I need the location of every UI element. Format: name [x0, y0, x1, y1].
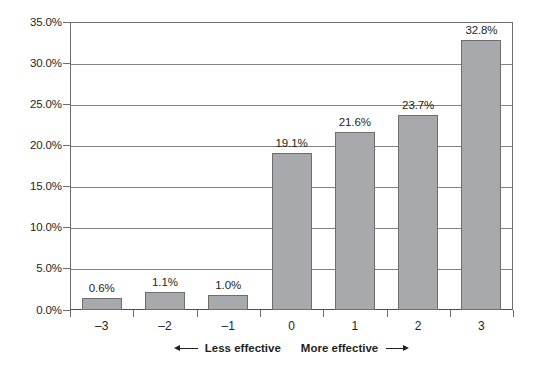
y-axis-label: 25.0%	[0, 98, 62, 110]
bar-chart: 35.0% 30.0% 25.0% 20.0% 15.0% 10.0% 5.0%…	[0, 0, 540, 375]
bar[interactable]	[208, 295, 248, 310]
bar-value-label: 23.7%	[402, 99, 434, 111]
bar-slot: 23.7%	[387, 22, 450, 310]
x-axis-label: 0	[260, 319, 323, 333]
bar-value-label: 1.1%	[152, 276, 178, 288]
bar-slot: 1.0%	[197, 22, 260, 310]
bar-value-label: 32.8%	[465, 24, 497, 36]
bar[interactable]	[335, 132, 375, 310]
x-axis-label: –2	[133, 319, 196, 333]
y-axis-label: 10.0%	[0, 221, 62, 233]
y-axis-label: 30.0%	[0, 57, 62, 69]
bar-slot: 21.6%	[323, 22, 386, 310]
x-axis-tick	[70, 310, 71, 317]
bars-layer: 0.6% 1.1% 1.0% 19.1% 21.6% 23.7% 32.8%	[70, 22, 513, 310]
bar[interactable]	[145, 292, 185, 310]
bar[interactable]	[398, 115, 438, 310]
bar-slot: 19.1%	[260, 22, 323, 310]
axis-scale-annotation: Less effective More effective	[70, 342, 513, 354]
x-axis-tick	[260, 310, 261, 317]
y-axis-label: 5.0%	[0, 262, 62, 274]
y-axis-label: 35.0%	[0, 16, 62, 28]
x-axis-label: 1	[323, 319, 386, 333]
y-axis: 35.0% 30.0% 25.0% 20.0% 15.0% 10.0% 5.0%…	[0, 0, 62, 375]
more-effective-annotation: More effective	[301, 342, 409, 354]
less-effective-annotation: Less effective	[174, 342, 281, 354]
y-axis-label: 0.0%	[0, 304, 62, 316]
arrow-left-icon	[174, 344, 200, 353]
bar[interactable]	[272, 153, 312, 310]
bar-value-label: 0.6%	[89, 282, 115, 294]
x-axis-tick	[197, 310, 198, 317]
bar-slot: 32.8%	[450, 22, 513, 310]
bar[interactable]	[82, 298, 122, 310]
bar-slot: 0.6%	[70, 22, 133, 310]
x-axis-label: –1	[197, 319, 260, 333]
bar[interactable]	[461, 40, 501, 310]
less-effective-label: Less effective	[205, 342, 281, 354]
x-axis-tick	[387, 310, 388, 317]
x-axis-tick	[323, 310, 324, 317]
bar-slot: 1.1%	[133, 22, 196, 310]
x-axis-label: –3	[70, 319, 133, 333]
y-axis-label: 15.0%	[0, 180, 62, 192]
arrow-right-icon	[383, 344, 409, 353]
x-axis-tick	[450, 310, 451, 317]
x-axis-label: 3	[450, 319, 513, 333]
more-effective-label: More effective	[301, 342, 378, 354]
bar-value-label: 19.1%	[275, 137, 307, 149]
x-axis-label: 2	[387, 319, 450, 333]
x-axis-tick	[133, 310, 134, 317]
x-axis-tick	[513, 310, 514, 317]
x-axis: –3 –2 –1 0 1 2 3	[70, 310, 513, 340]
y-axis-label: 20.0%	[0, 139, 62, 151]
bar-value-label: 21.6%	[339, 116, 371, 128]
bar-value-label: 1.0%	[215, 279, 241, 291]
